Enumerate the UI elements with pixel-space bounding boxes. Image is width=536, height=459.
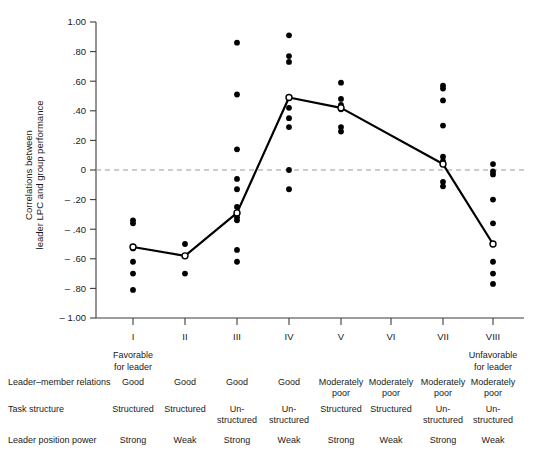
data-point — [286, 115, 292, 121]
table-cell: Good — [174, 377, 196, 387]
data-point — [490, 172, 496, 178]
table-row-header: Leader position power — [8, 435, 97, 445]
data-point — [234, 40, 240, 46]
table-cell: Un- — [486, 404, 501, 414]
data-point — [130, 287, 136, 293]
data-point — [286, 53, 292, 59]
octant-label-I: I — [132, 331, 135, 342]
data-point — [130, 271, 136, 277]
table-cell: Un- — [230, 404, 245, 414]
data-point — [286, 186, 292, 192]
y-axis-title-line2: leader LPC and group performance — [34, 101, 45, 250]
table-cell-cont: poor — [382, 388, 400, 398]
table-row-header: Leader–member relations — [8, 377, 111, 387]
data-point — [490, 220, 496, 226]
data-point — [130, 259, 136, 265]
data-point — [440, 86, 446, 92]
data-point — [286, 124, 292, 130]
table-cell: Moderately — [319, 377, 364, 387]
table-cell-cont: structured — [269, 415, 309, 425]
data-point — [490, 197, 496, 203]
table-cell-cont: structured — [473, 415, 513, 425]
table-cell: Moderately — [369, 377, 414, 387]
table-cell-cont: structured — [423, 415, 463, 425]
y-axis-ticks: 1.00.80.60.40.200– .20– .40– .60– .80– 1… — [60, 16, 96, 323]
anchor-unfavorable-line2: for leader — [474, 362, 512, 372]
data-point — [490, 281, 496, 287]
data-point — [490, 161, 496, 167]
y-axis-title: Correlations between leader LPC and grou… — [23, 101, 45, 250]
table-cell: Good — [226, 377, 248, 387]
fiedler-contingency-chart: Correlations between leader LPC and grou… — [0, 0, 536, 459]
y-tick-label: .80 — [73, 46, 86, 57]
octant-label-II: II — [182, 331, 187, 342]
anchor-unfavorable: Unfavorable for leader — [469, 350, 518, 372]
y-axis-title-line1: Correlations between — [23, 130, 34, 220]
y-tick-label: – 1.00 — [60, 312, 86, 323]
table-cell: Structured — [370, 404, 412, 414]
data-point — [234, 92, 240, 98]
octant-label-VII: VII — [437, 331, 449, 342]
data-point — [182, 271, 188, 277]
data-point — [338, 96, 344, 102]
data-point — [286, 105, 292, 111]
median-marker — [490, 241, 496, 247]
table-cell: Moderately — [421, 377, 466, 387]
table-cell: Strong — [224, 435, 251, 445]
median-marker — [286, 94, 292, 100]
chart-svg: Correlations between leader LPC and grou… — [0, 0, 536, 459]
y-tick-label: – .20 — [65, 194, 86, 205]
y-tick-label: 0 — [81, 164, 86, 175]
y-tick-label: .40 — [73, 105, 86, 116]
octant-label-III: III — [233, 331, 241, 342]
table-cell: Good — [122, 377, 144, 387]
data-point — [234, 217, 240, 223]
x-axis-ticks — [133, 318, 493, 325]
table-cell-cont: structured — [217, 415, 257, 425]
table-cell: Weak — [380, 435, 403, 445]
data-point — [234, 259, 240, 265]
anchor-favorable: Favorable for leader — [113, 350, 153, 372]
anchor-unfavorable-line1: Unfavorable — [469, 350, 518, 360]
octant-label-IV: IV — [285, 331, 295, 342]
data-point — [440, 183, 446, 189]
table-cell: Moderately — [471, 377, 516, 387]
data-point — [338, 129, 344, 135]
data-point — [440, 98, 446, 104]
data-point — [286, 167, 292, 173]
table-cell: Good — [278, 377, 300, 387]
median-marker — [130, 244, 136, 250]
data-point — [286, 32, 292, 38]
median-trend-line — [133, 97, 493, 255]
median-marker — [338, 105, 344, 111]
data-point — [286, 59, 292, 65]
data-point — [130, 220, 136, 226]
anchor-favorable-line2: for leader — [114, 362, 152, 372]
data-point — [490, 271, 496, 277]
table-cell: Weak — [278, 435, 301, 445]
table-cell: Structured — [320, 404, 362, 414]
median-marker-group — [130, 94, 496, 258]
y-tick-label: – .60 — [65, 253, 86, 264]
data-point — [234, 247, 240, 253]
table-cell: Strong — [328, 435, 355, 445]
table-cell: Weak — [174, 435, 197, 445]
condition-table: Leader–member relationsGoodGoodGoodGoodM… — [8, 377, 516, 445]
octant-label-VIII: VIII — [486, 331, 500, 342]
y-tick-label: – .80 — [65, 283, 86, 294]
table-cell-cont: poor — [434, 388, 452, 398]
table-row-header: Task structure — [8, 404, 64, 414]
data-point — [338, 80, 344, 86]
table-cell-cont: poor — [332, 388, 350, 398]
data-point — [182, 241, 188, 247]
table-cell: Structured — [112, 404, 154, 414]
table-cell: Weak — [482, 435, 505, 445]
data-point — [490, 259, 496, 265]
table-cell: Un- — [436, 404, 451, 414]
octant-label-V: V — [338, 331, 345, 342]
y-tick-label: 1.00 — [68, 16, 87, 27]
median-marker — [440, 161, 446, 167]
y-tick-label: .60 — [73, 76, 86, 87]
table-cell: Strong — [430, 435, 457, 445]
data-point — [234, 176, 240, 182]
